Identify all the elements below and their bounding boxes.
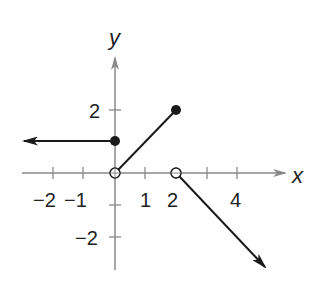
- x-tick-label-1: 1: [140, 189, 151, 211]
- closed-point-2-2: [171, 105, 181, 115]
- rising-segment: [118, 110, 176, 170]
- piecewise-function-graph: x y −2 −1 1 2 4 2 −2: [0, 0, 327, 292]
- closed-point-0-1: [110, 136, 120, 146]
- x-tick-label-2: 2: [167, 189, 178, 211]
- x-axis-label: x: [291, 163, 304, 188]
- y-tick-label-neg2: −2: [75, 227, 98, 249]
- y-tick-label-2: 2: [89, 100, 100, 122]
- x-tick-label-neg1: −1: [64, 189, 87, 211]
- x-tick-label-neg2: −2: [33, 189, 56, 211]
- falling-ray: [179, 176, 265, 267]
- y-axis-label: y: [107, 25, 122, 50]
- x-tick-label-4: 4: [230, 189, 241, 211]
